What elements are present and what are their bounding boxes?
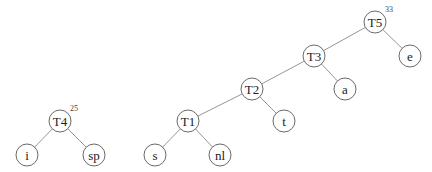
- node-label: i: [25, 148, 29, 163]
- edge-T4-i: [35, 129, 53, 147]
- tree-node-T2: T2: [241, 78, 263, 100]
- edge-T1-s: [163, 129, 181, 147]
- node-weight: 33: [385, 5, 393, 14]
- tree-node-T1: T1: [177, 110, 199, 132]
- edge-T3-T2: [262, 61, 305, 84]
- huffman-tree-diagram: T533T3eT2aT1tsnlT425isp: [0, 0, 432, 172]
- node-label: T1: [181, 114, 195, 129]
- node-weight: 25: [70, 104, 78, 113]
- tree-node-sp: sp: [83, 144, 105, 166]
- tree-node-nl: nl: [209, 144, 231, 166]
- node-label: nl: [215, 148, 226, 163]
- tree-node-T3: T3: [303, 45, 325, 67]
- node-label: T3: [307, 49, 321, 64]
- edge-T3-a: [322, 64, 338, 81]
- node-label: T4: [53, 114, 68, 129]
- tree-node-T5: T533: [364, 5, 393, 33]
- tree-node-i: i: [16, 144, 38, 166]
- tree-node-a: a: [334, 78, 356, 100]
- node-label: e: [407, 49, 413, 64]
- edge-T2-T1: [198, 94, 242, 116]
- edge-T5-e: [383, 30, 402, 49]
- tree-node-e: e: [399, 45, 421, 67]
- edge-T5-T3: [324, 27, 366, 50]
- edge-T4-sp: [68, 129, 86, 147]
- node-label: sp: [88, 148, 100, 163]
- node-label: s: [152, 148, 157, 163]
- tree-node-T4: T425: [49, 104, 78, 132]
- tree-node-s: s: [144, 144, 166, 166]
- nodes: T533T3eT2aT1tsnlT425isp: [16, 5, 421, 166]
- edge-T2-t: [260, 97, 276, 113]
- node-label: a: [342, 82, 348, 97]
- tree-node-t: t: [273, 110, 295, 132]
- node-label: t: [282, 114, 286, 129]
- node-label: T2: [245, 82, 259, 97]
- node-label: T5: [368, 15, 382, 30]
- edge-T1-nl: [196, 129, 213, 147]
